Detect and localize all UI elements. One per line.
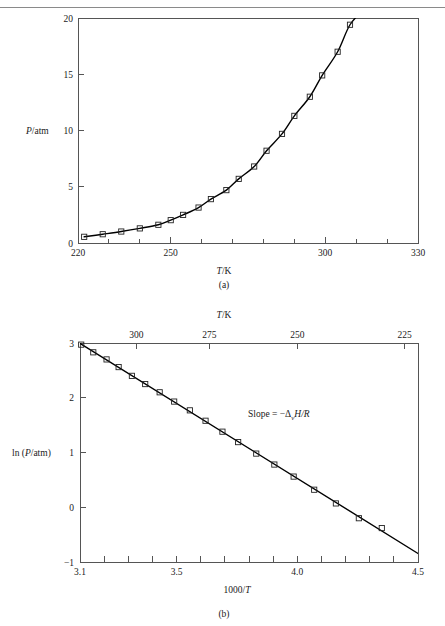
- panel-b-top-axis-title: T/K: [217, 310, 232, 320]
- panel-b-ytick-0: 0: [69, 503, 74, 513]
- panel-a-ytick-10: 10: [64, 126, 74, 136]
- panel-b-xtick-4p5: 4.5: [412, 567, 424, 577]
- data-point-marker: [264, 148, 269, 153]
- panel-b-xlabel-pre: 1000/: [224, 585, 246, 595]
- panel-a-y-ticks: [78, 18, 84, 243]
- panel-a-ytick-20: 20: [64, 14, 74, 24]
- panel-b-xlabel-italic: T: [245, 585, 251, 595]
- data-point-marker: [335, 49, 340, 54]
- panel-b-y-axis-title: ln (P/atm): [12, 448, 51, 459]
- panel-a-x-axis-title: T/K: [217, 266, 232, 276]
- figure-page: 0 5 10 15 20 P/atm: [0, 0, 445, 626]
- panel-a-x-ticks: [78, 237, 418, 243]
- data-point-marker: [252, 164, 257, 169]
- panel-b-ytick-2: 2: [69, 393, 74, 403]
- panel-a-ylabel-rest: /atm: [32, 126, 49, 136]
- panel-b-ytick-1: 1: [69, 448, 74, 458]
- data-point-marker: [168, 218, 173, 223]
- panel-b-top-ticks: [136, 343, 404, 349]
- panel-b-ytick-3: 3: [69, 339, 74, 349]
- data-point-marker: [196, 205, 201, 210]
- data-point-marker: [279, 131, 284, 136]
- panel-a-ytick-5: 5: [68, 182, 73, 192]
- data-point-marker: [143, 381, 148, 386]
- panel-b-x-ticklabels: 3.1 3.5 4.0 4.5: [74, 567, 424, 577]
- data-point-marker: [333, 501, 338, 506]
- panel-a-xlabel-rest: /K: [222, 266, 232, 276]
- panel-a-xtick-300: 300: [318, 248, 333, 258]
- svg-text:P/atm: P/atm: [25, 126, 49, 136]
- svg-text:ln (P/atm): ln (P/atm): [12, 448, 51, 459]
- panel-b-ylabel-pre: ln (: [12, 448, 25, 459]
- panel-a-ytick-0: 0: [68, 239, 73, 249]
- data-point-marker: [291, 474, 296, 479]
- panel-b-x-ticks: [80, 556, 418, 562]
- svg-text:T/K: T/K: [217, 310, 232, 320]
- panel-b-y-ticks: [80, 343, 86, 562]
- chart-panel-a: 0 5 10 15 20 P/atm: [0, 0, 445, 300]
- chart-panel-b: T/K 300 275 250 225: [0, 300, 445, 626]
- data-point-marker: [116, 364, 121, 369]
- panel-b-slope-annotation: Slope = −ΔvH/R: [248, 409, 310, 422]
- panel-b-xtick-3p5: 3.5: [171, 567, 183, 577]
- data-point-marker: [100, 232, 105, 237]
- panel-a-xtick-250: 250: [164, 248, 179, 258]
- data-point-marker: [312, 487, 317, 492]
- data-point-marker: [91, 350, 96, 355]
- data-point-marker: [79, 342, 84, 347]
- panel-b-xtick-4p0: 4.0: [291, 567, 303, 577]
- panel-b-toptick-275: 275: [202, 330, 217, 340]
- slope-annotation-post: H/R: [293, 409, 310, 419]
- data-point-marker: [254, 451, 259, 456]
- data-point-marker: [236, 176, 241, 181]
- data-point-marker: [82, 234, 87, 239]
- data-point-marker: [379, 525, 384, 530]
- svg-text:1000/T: 1000/T: [224, 585, 252, 595]
- svg-text:Slope = −ΔvH/R: Slope = −ΔvH/R: [248, 409, 310, 422]
- data-point-marker: [104, 357, 109, 362]
- panel-b-toptick-300: 300: [129, 330, 144, 340]
- panel-a-xtick-330: 330: [411, 248, 426, 258]
- panel-b-data-series: [79, 342, 418, 553]
- data-point-marker: [156, 222, 161, 227]
- data-point-marker: [180, 212, 185, 217]
- panel-b-x-axis-title: 1000/T: [224, 585, 252, 595]
- data-point-marker: [347, 22, 352, 27]
- slope-annotation-pre: Slope = −Δ: [248, 409, 291, 419]
- data-point-marker: [137, 226, 142, 231]
- panel-a-y-axis-title: P/atm: [25, 126, 49, 136]
- data-point-marker: [272, 462, 277, 467]
- data-point-marker: [236, 440, 241, 445]
- data-point-marker: [208, 197, 213, 202]
- svg-text:T/K: T/K: [217, 266, 232, 276]
- panel-a-curve: [84, 0, 378, 237]
- panel-a-xtick-220: 220: [71, 248, 86, 258]
- panel-b-top-ticklabels: 300 275 250 225: [129, 330, 412, 340]
- panel-b-svg: T/K 300 275 250 225: [0, 300, 445, 626]
- data-point-marker: [187, 408, 192, 413]
- panel-a-ytick-15: 15: [64, 70, 74, 80]
- data-point-marker: [129, 373, 134, 378]
- panel-b-xtick-3p1: 3.1: [74, 567, 86, 577]
- panel-b-ylabel-post: /atm): [31, 448, 51, 459]
- panel-b-ytick-neg1: −1: [64, 558, 74, 568]
- data-point-marker: [307, 94, 312, 99]
- data-point-marker: [119, 229, 124, 234]
- data-point-marker: [320, 73, 325, 78]
- panel-a-data-series: [82, 0, 378, 239]
- data-point-marker: [224, 188, 229, 193]
- data-point-marker: [203, 418, 208, 423]
- panel-b-y-ticklabels: −1 0 1 2 3: [64, 339, 74, 568]
- panel-b-toptick-225: 225: [397, 330, 412, 340]
- data-point-marker: [356, 516, 361, 521]
- panel-a-markers: [82, 22, 353, 239]
- panel-a-svg: 0 5 10 15 20 P/atm: [0, 0, 445, 300]
- data-point-marker: [157, 390, 162, 395]
- panel-a-x-ticklabels: 220 250 300 330: [71, 248, 426, 258]
- panel-a-frame: [78, 18, 418, 243]
- panel-b-toplabel-rest: /K: [222, 310, 232, 320]
- data-point-marker: [292, 113, 297, 118]
- data-point-marker: [220, 429, 225, 434]
- data-point-marker: [172, 399, 177, 404]
- panel-b-toptick-250: 250: [290, 330, 305, 340]
